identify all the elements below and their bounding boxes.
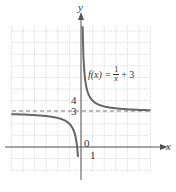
y-axis-arrow-icon — [78, 12, 84, 20]
function-tail: + 3 — [121, 70, 134, 80]
function-label: f(x) = 1 x + 3 — [88, 66, 134, 83]
origin-label: 0 — [84, 138, 90, 149]
y-tick-4: 4 — [71, 95, 77, 106]
y-tick-3: 3 — [71, 106, 77, 117]
graph-canvas — [0, 0, 176, 192]
y-axis-label: y — [78, 2, 83, 13]
x-tick-1: 1 — [90, 150, 96, 161]
graph: y x 0 1 3 4 f(x) = 1 x + 3 — [0, 0, 176, 192]
fraction: 1 x — [113, 66, 119, 83]
function-name: f(x) = — [88, 70, 111, 80]
x-axis-label: x — [166, 141, 171, 152]
denominator: x — [114, 75, 118, 83]
